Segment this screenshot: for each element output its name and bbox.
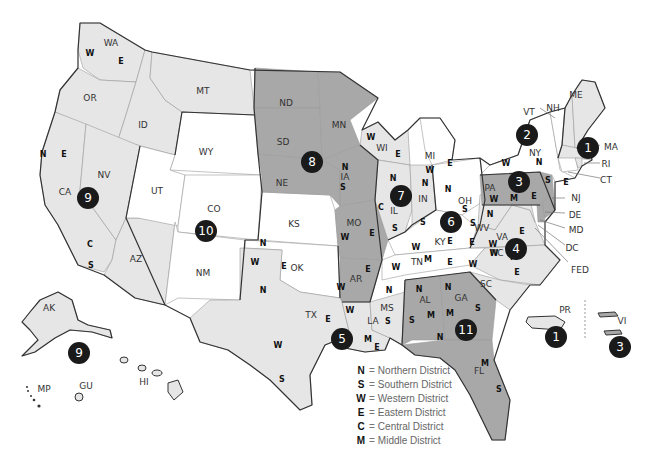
svg-text:MN: MN [332,120,347,130]
svg-text:N: N [342,163,349,172]
svg-text:E: E [118,57,123,66]
svg-text:WI: WI [376,143,388,153]
circuit-map: WA OR ID MT WY CA NV UT CO AZ NM ND SD N… [0,0,653,467]
svg-text:W: W [86,49,95,58]
svg-text:M: M [510,194,518,203]
svg-text:3: 3 [616,340,624,354]
svg-text:NE: NE [276,178,289,188]
state-wy[interactable] [170,112,262,175]
state-oh[interactable] [432,158,485,215]
svg-text:NM: NM [196,268,211,278]
svg-text:MD: MD [569,225,584,235]
svg-text:9: 9 [84,191,92,205]
svg-text:PA: PA [484,183,496,193]
svg-text:E: E [514,268,519,277]
svg-text:W: W [337,283,346,292]
svg-text:KS: KS [288,219,300,229]
svg-text:CT: CT [600,175,612,185]
svg-text:W: W [251,258,260,267]
svg-text:GU: GU [79,381,93,391]
svg-text:N: N [445,185,452,194]
svg-text:WY: WY [199,147,214,157]
svg-text:IL: IL [390,206,398,216]
svg-text:E: E [395,150,400,159]
circuit-badge-9[interactable]: 9 [77,187,99,209]
svg-text:E: E [369,229,374,238]
svg-text:NH: NH [546,103,560,113]
circuit-badge-11[interactable]: 11 [455,319,477,341]
svg-text:N: N [487,210,494,219]
circuit-badge-9-alaska[interactable]: 9 [68,342,90,364]
legend-item-central: C=Central District [356,420,452,434]
territory-gu[interactable] [75,393,83,401]
svg-text:S: S [462,205,468,214]
svg-text:N: N [536,158,543,167]
svg-text:N: N [422,179,429,188]
svg-text:VT: VT [523,107,535,117]
circuit-badge-5[interactable]: 5 [331,328,353,350]
circuit-badge-1[interactable]: 1 [577,137,599,159]
svg-text:M: M [481,359,489,368]
svg-text:DC: DC [565,243,578,253]
svg-text:WA: WA [104,38,119,48]
svg-text:NY: NY [529,148,542,158]
svg-text:HI: HI [139,377,148,387]
legend-label: Middle District [378,435,441,446]
circuit-badge-8[interactable]: 8 [301,151,323,173]
legend-item-eastern: E=Eastern District [356,406,452,420]
svg-text:CO: CO [207,204,220,214]
circuit-badge-6[interactable]: 6 [440,211,462,233]
svg-text:W: W [469,260,478,269]
svg-text:SD: SD [277,137,290,147]
legend-item-western: W=Western District [356,392,452,406]
circuit-badge-3-vi[interactable]: 3 [609,336,631,358]
state-ak[interactable] [22,292,112,356]
svg-text:W: W [489,240,498,249]
svg-text:S: S [409,316,415,325]
svg-text:ME: ME [569,90,583,100]
svg-text:W: W [502,159,511,168]
svg-text:W: W [367,133,376,142]
circuit-badge-1-pr[interactable]: 1 [545,326,567,348]
svg-text:MA: MA [604,142,619,152]
svg-text:3: 3 [515,175,523,189]
svg-text:W: W [490,249,499,258]
svg-text:VA: VA [496,232,509,242]
svg-text:S: S [385,317,391,326]
svg-text:C: C [87,240,93,249]
svg-text:S: S [475,304,481,313]
state-hi[interactable] [120,357,183,400]
svg-text:E: E [61,150,66,159]
svg-text:W: W [490,195,499,204]
svg-text:FED: FED [571,265,589,275]
svg-text:KY: KY [434,237,446,247]
svg-text:5: 5 [338,332,346,346]
svg-text:S: S [470,219,476,228]
circuit-badge-4[interactable]: 4 [505,238,527,260]
svg-text:M: M [364,335,372,344]
legend-item-middle: M=Middle District [356,434,452,448]
legend-item-northern: N=Northern District [356,364,452,378]
circuit-badge-2[interactable]: 2 [516,124,538,146]
svg-text:C: C [378,203,384,212]
svg-text:VI: VI [618,316,627,326]
circuit-badge-3[interactable]: 3 [508,171,530,193]
svg-text:9: 9 [75,346,83,360]
svg-text:NJ: NJ [571,193,580,203]
svg-text:N: N [260,286,267,295]
svg-text:N: N [386,286,393,295]
circuit-badge-7[interactable]: 7 [390,185,412,207]
svg-text:MP: MP [37,384,51,394]
svg-text:MO: MO [347,218,362,228]
svg-text:1: 1 [584,141,592,155]
svg-text:DE: DE [569,210,582,220]
svg-text:OK: OK [291,263,305,273]
circuit-badge-10[interactable]: 10 [195,220,217,242]
svg-text:M: M [427,311,435,320]
svg-text:E: E [469,238,474,247]
svg-text:S: S [340,183,346,192]
svg-text:W: W [412,243,421,252]
svg-text:WV: WV [474,223,490,233]
svg-text:1: 1 [552,330,560,344]
svg-text:E: E [563,178,568,187]
